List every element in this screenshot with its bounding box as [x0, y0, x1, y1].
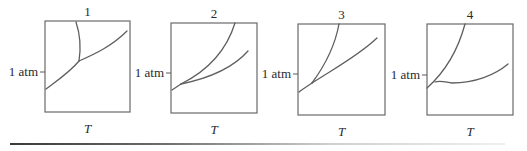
y-axis-label: 1 atm: [391, 67, 420, 82]
panel-number: 4: [467, 7, 474, 22]
phase-diagram-panel-3: 31 atmT: [262, 7, 385, 139]
phase-diagram-panel-1: 11 atmT: [9, 4, 130, 136]
phase-boundary-curve: [312, 38, 377, 83]
phase-boundary-curve: [76, 22, 80, 61]
x-axis-label: T: [84, 121, 92, 136]
panel-number: 2: [211, 6, 218, 21]
y-axis-label: 1 atm: [9, 64, 38, 79]
phase-boundary-curve: [181, 23, 235, 84]
y-axis-label: 1 atm: [262, 66, 291, 81]
phase-boundary-curve: [299, 83, 312, 92]
bottom-rule: [10, 143, 505, 145]
x-axis-label: T: [466, 124, 474, 139]
y-axis-label: 1 atm: [135, 65, 164, 80]
phase-boundary-curve: [46, 61, 79, 89]
plot-frame: [298, 24, 385, 115]
phase-diagram-panel-4: 41 atmT: [391, 7, 513, 139]
phase-boundary-curve: [427, 24, 465, 88]
phase-diagram-panel-2: 21 atmT: [135, 6, 257, 137]
x-axis-label: T: [210, 122, 218, 137]
phase-boundary-curve: [79, 31, 127, 61]
panel-number: 1: [84, 4, 91, 19]
plot-frame: [45, 21, 130, 112]
panel-number: 3: [338, 7, 345, 22]
plot-frame: [171, 23, 257, 113]
phase-diagrams-figure: 11 atmT21 atmT31 atmT41 atmT: [0, 0, 527, 151]
x-axis-label: T: [338, 124, 346, 139]
phase-boundary-curve: [172, 84, 181, 90]
